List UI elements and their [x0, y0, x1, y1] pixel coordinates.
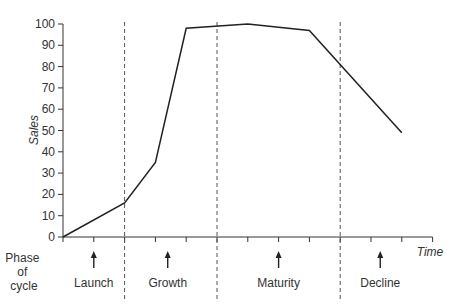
product-life-cycle-chart: 0102030405060708090100 LaunchGrowthMatur… [0, 0, 455, 307]
y-tick-label: 30 [42, 166, 56, 180]
phase-label: Growth [148, 276, 187, 290]
arrow-head-icon [91, 251, 97, 258]
y-tick-label: 70 [42, 81, 56, 95]
arrow-head-icon [377, 251, 383, 258]
phase-maturity: Maturity [257, 251, 300, 290]
y-tick-label: 10 [42, 209, 56, 223]
phase-growth: Growth [148, 251, 187, 290]
y-tick-label: 20 [42, 187, 56, 201]
y-tick-label: 80 [42, 60, 56, 74]
phase-label: Launch [74, 276, 113, 290]
y-tick-label: 0 [48, 230, 55, 244]
arrow-head-icon [276, 251, 282, 258]
phase-labels: LaunchGrowthMaturityDecline [74, 251, 400, 290]
x-axis [63, 237, 433, 242]
y-tick-label: 60 [42, 102, 56, 116]
y-tick-label: 50 [42, 124, 56, 138]
sales-series-line [63, 24, 402, 237]
y-tick-label: 40 [42, 145, 56, 159]
y-tick-label: 90 [42, 38, 56, 52]
phase-label: Maturity [257, 276, 300, 290]
phase-launch: Launch [74, 251, 113, 290]
arrow-head-icon [165, 251, 171, 258]
sales-line [63, 24, 402, 237]
phase-decline: Decline [360, 251, 400, 290]
y-tick-label: 100 [35, 17, 55, 31]
phase-label: Decline [360, 276, 400, 290]
y-axis-title: Sales [27, 115, 41, 145]
phase-row-label: Phase of cycle [5, 251, 42, 293]
x-axis-title: Time [417, 245, 444, 259]
phase-boundary-lines [125, 22, 341, 300]
